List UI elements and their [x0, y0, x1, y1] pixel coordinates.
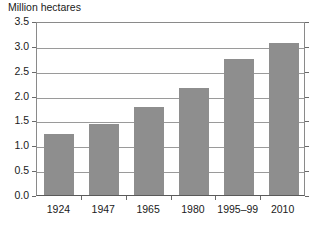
y-axis-tick-label: 2.0	[0, 91, 29, 102]
x-axis-tick	[260, 196, 261, 200]
x-axis-tick	[81, 196, 82, 200]
x-axis-tick	[126, 196, 127, 200]
y-axis-tick-right	[305, 97, 309, 98]
y-axis-tick-right	[305, 47, 309, 48]
x-axis-tick-label: 1980	[171, 203, 216, 215]
chart-title: Million hectares	[8, 1, 81, 14]
y-axis-tick-label: 0.0	[0, 190, 29, 201]
bar-chart-figure: Million hectares 0.00.51.01.52.02.53.03.…	[0, 0, 324, 236]
plot-area	[36, 22, 305, 196]
y-axis-tick-right	[305, 146, 309, 147]
y-axis-tick-label: 0.5	[0, 165, 29, 176]
y-axis-tick-label: 1.0	[0, 140, 29, 151]
y-axis-tick	[32, 47, 36, 48]
bar	[224, 59, 254, 195]
y-axis-tick	[32, 171, 36, 172]
y-axis-tick	[32, 72, 36, 73]
x-axis-tick	[215, 196, 216, 200]
y-axis-tick-right	[305, 121, 309, 122]
y-axis-tick	[32, 121, 36, 122]
x-axis-tick-label: 1995–99	[215, 203, 260, 215]
x-axis-tick-label: 1924	[36, 203, 81, 215]
y-axis-tick-right	[305, 22, 309, 23]
y-axis-tick-label: 3.5	[0, 16, 29, 27]
bar	[89, 124, 119, 195]
y-axis-tick	[32, 22, 36, 23]
y-axis-tick-label: 2.5	[0, 66, 29, 77]
y-axis-tick	[32, 196, 36, 197]
y-axis-tick-label: 1.5	[0, 115, 29, 126]
x-axis-tick-label: 1965	[126, 203, 171, 215]
x-axis-tick-label: 2010	[260, 203, 305, 215]
x-axis-tick	[171, 196, 172, 200]
bar	[134, 107, 164, 195]
y-axis-tick-right	[305, 72, 309, 73]
bar-series	[37, 23, 304, 195]
bar	[269, 43, 299, 195]
y-axis-tick-right	[305, 196, 309, 197]
x-axis-tick-label: 1947	[81, 203, 126, 215]
bar	[44, 134, 74, 195]
y-axis-tick-label: 3.0	[0, 41, 29, 52]
y-axis-tick	[32, 97, 36, 98]
y-axis-tick	[32, 146, 36, 147]
bar	[179, 88, 209, 195]
y-axis-tick-right	[305, 171, 309, 172]
